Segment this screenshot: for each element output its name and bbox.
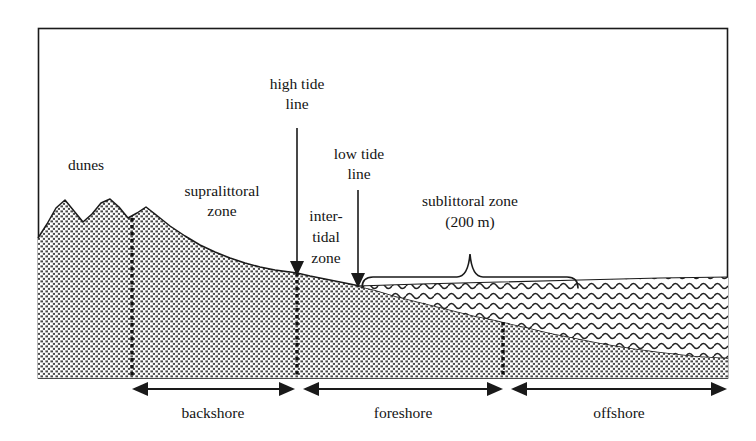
intertidal-zone-label-line3: zone	[311, 249, 340, 266]
low-tide-line-label-line2: line	[347, 165, 370, 182]
intertidal-zone-label-line2: tidal	[312, 228, 340, 245]
intertidal-zone-label-line1: inter-	[309, 207, 342, 224]
sublittoral-zone-label-line1: sublittoral zone	[422, 192, 518, 209]
low-tide-line-label-line1: low tide	[334, 145, 384, 162]
foreshore-label: foreshore	[374, 404, 433, 421]
figure-canvas: dunes supralittoral zone high tide line …	[0, 0, 756, 441]
bottom-axis: backshore foreshore offshore	[132, 382, 727, 421]
dunes-label: dunes	[68, 156, 104, 173]
high-tide-line-label-line1: high tide	[270, 75, 325, 92]
offshore-arrow	[511, 382, 727, 396]
backshore-arrow	[132, 382, 295, 396]
sublittoral-zone-label-line2: (200 m)	[445, 213, 495, 231]
high-tide-line-label-line2: line	[285, 95, 308, 112]
supralittoral-zone-label-line1: supralittoral	[185, 182, 260, 199]
coastal-zonation-diagram: dunes supralittoral zone high tide line …	[0, 0, 756, 441]
backshore-label: backshore	[182, 404, 245, 421]
offshore-label: offshore	[593, 404, 644, 421]
supralittoral-zone-label-line2: zone	[207, 202, 236, 219]
foreshore-arrow	[303, 382, 503, 396]
